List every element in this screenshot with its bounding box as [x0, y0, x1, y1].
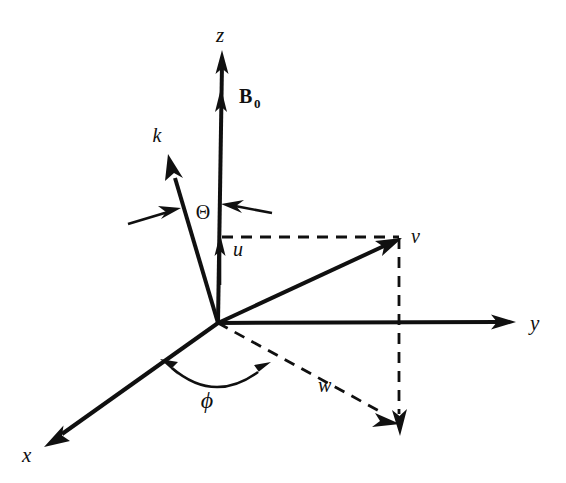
vector-v: v: [218, 225, 420, 323]
construction-v-vertical: [392, 238, 407, 436]
axis-x: x: [21, 323, 218, 467]
vector-k-arrowhead: [165, 154, 183, 181]
vector-u-label: u: [233, 238, 243, 260]
vector-w-label: w: [318, 374, 332, 396]
vector-w-line: [218, 323, 381, 412]
vector-k-line: [175, 178, 218, 323]
axis-z-label: z: [215, 23, 224, 47]
vector-k: k: [153, 124, 218, 323]
angle-phi-arc: [172, 368, 258, 387]
angle-theta: Θ: [128, 200, 272, 224]
vector-w: w: [218, 323, 400, 427]
coordinate-system-diagram: z y x k B 0 v: [0, 0, 566, 483]
angle-theta-label: Θ: [196, 201, 210, 223]
axis-y: y: [218, 311, 540, 335]
vector-v-label: v: [411, 225, 420, 247]
axis-x-line: [62, 323, 218, 434]
vector-b0-label: B: [239, 85, 252, 107]
axis-y-label: y: [528, 311, 540, 335]
angle-phi: ϕ: [160, 359, 271, 413]
vector-k-label: k: [153, 124, 163, 146]
axis-x-label: x: [21, 443, 32, 467]
angle-phi-label: ϕ: [201, 387, 213, 413]
angle-theta-left-arrowhead: [158, 206, 181, 219]
angle-phi-left-arrowhead: [160, 359, 178, 375]
vector-b0-subscript: 0: [254, 96, 261, 111]
axis-y-line: [218, 322, 498, 323]
vector-u: u: [215, 234, 244, 285]
axis-z: z: [215, 23, 229, 323]
angle-phi-right-arrowhead: [252, 362, 271, 377]
figure-canvas: z y x k B 0 v: [0, 0, 566, 483]
